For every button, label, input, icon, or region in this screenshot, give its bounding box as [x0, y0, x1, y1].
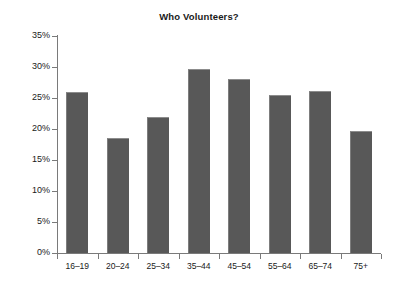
y-axis-tick: [52, 98, 57, 99]
y-axis-tick-label-wrap: 30%: [0, 62, 50, 72]
y-axis-tick-label-wrap: 15%: [0, 155, 50, 165]
bar-chart-figure: Who Volunteers? 0%5%10%15%20%25%30%35% 1…: [0, 0, 398, 288]
x-axis-category-label: 25–34: [138, 262, 179, 271]
x-axis-tick: [219, 254, 220, 259]
y-axis-tick-label: 25%: [2, 93, 50, 102]
x-axis-tick: [57, 254, 58, 259]
y-axis-tick: [52, 36, 57, 37]
y-axis-tick: [52, 160, 57, 161]
x-axis-category-label: 45–54: [219, 262, 260, 271]
x-axis-tick: [179, 254, 180, 259]
y-axis-tick-label-wrap: 10%: [0, 186, 50, 196]
x-axis-category-label: 65–74: [300, 262, 341, 271]
y-axis-tick-label: 0%: [2, 248, 50, 257]
bar: [269, 95, 291, 253]
y-axis-tick-label-wrap: 5%: [0, 217, 50, 227]
bar: [350, 131, 372, 253]
bar: [147, 117, 169, 253]
bar: [66, 92, 88, 253]
y-axis-tick-label: 10%: [2, 186, 50, 195]
chart-title: Who Volunteers?: [0, 11, 398, 22]
x-axis-tick: [98, 254, 99, 259]
y-axis-tick: [52, 129, 57, 130]
x-axis-category-label: 55–64: [260, 262, 301, 271]
y-axis-tick: [52, 191, 57, 192]
y-axis-tick: [52, 222, 57, 223]
bar: [228, 79, 250, 253]
x-axis-tick: [381, 254, 382, 259]
y-axis-tick-label-wrap: 0%: [0, 248, 50, 258]
x-axis-category-label: 16–19: [57, 262, 98, 271]
x-axis-category-label: 20–24: [98, 262, 139, 271]
y-axis-tick-label: 30%: [2, 62, 50, 71]
x-axis-tick: [341, 254, 342, 259]
x-axis-tick: [138, 254, 139, 259]
y-axis-tick-label: 5%: [2, 217, 50, 226]
y-axis-tick-label: 35%: [2, 31, 50, 40]
y-axis-tick-label: 15%: [2, 155, 50, 164]
y-axis-line: [57, 35, 58, 254]
y-axis-tick-label-wrap: 20%: [0, 124, 50, 134]
y-axis-tick-label: 20%: [2, 124, 50, 133]
x-axis-tick: [260, 254, 261, 259]
x-axis-tick: [300, 254, 301, 259]
x-axis-category-label: 75+: [341, 262, 382, 271]
x-axis-category-label: 35–44: [179, 262, 220, 271]
y-axis-tick: [52, 67, 57, 68]
y-axis-tick-label-wrap: 35%: [0, 31, 50, 41]
y-axis-tick-label-wrap: 25%: [0, 93, 50, 103]
bar: [309, 91, 331, 253]
bar: [188, 69, 210, 253]
bar: [107, 138, 129, 253]
